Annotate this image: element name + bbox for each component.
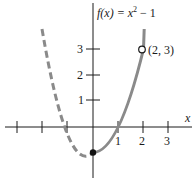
x-tick-label-3: 3 bbox=[164, 134, 170, 148]
x-tick-label-2: 2 bbox=[139, 134, 145, 148]
point-label: (2, 3) bbox=[148, 43, 174, 57]
title-label: f(x) = x2 − 1 bbox=[97, 5, 156, 20]
open-point bbox=[139, 46, 146, 53]
curve-dashed bbox=[42, 29, 93, 156]
vertex-point bbox=[90, 149, 96, 155]
y-tick-label-3: 3 bbox=[77, 42, 83, 56]
x-tick-label-1: 1 bbox=[115, 134, 121, 148]
y-tick-label-2: 2 bbox=[77, 68, 83, 82]
function-graph: f(x) = x2 − 1 (2, 3) x 3 2 1 1 2 3 bbox=[0, 0, 196, 182]
y-tick-label-1: 1 bbox=[78, 93, 84, 107]
x-axis-label: x bbox=[184, 111, 191, 125]
